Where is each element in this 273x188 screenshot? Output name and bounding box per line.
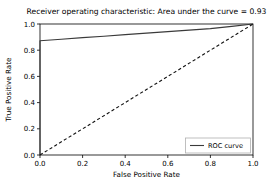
y-axis-label: True Positive Rate	[4, 57, 13, 123]
y-tick-label: 0.4	[24, 99, 36, 107]
roc-figure: Receiver operating characteristic: Area …	[0, 0, 273, 188]
x-tick-label: 1.0	[247, 160, 258, 168]
x-axis-label: False Positive Rate	[113, 170, 180, 179]
legend-label-roc-curve: ROC curve	[208, 142, 243, 150]
x-tick-label: 0.6	[162, 160, 174, 168]
x-tick-label: 0.4	[120, 160, 132, 168]
chart-legend[interactable]: ROC curve	[186, 138, 251, 153]
roc-chart-svg: Receiver operating characteristic: Area …	[0, 0, 273, 188]
y-tick-label: 1.0	[24, 21, 35, 29]
y-tick-label: 0.2	[24, 125, 35, 133]
x-tick-label: 0.2	[77, 160, 88, 168]
x-tick-label: 0.0	[34, 160, 45, 168]
x-tick-label: 0.8	[205, 160, 216, 168]
y-tick-label: 0.0	[24, 152, 35, 160]
y-tick-label: 0.6	[24, 73, 36, 81]
chart-title: Receiver operating characteristic: Area …	[27, 7, 267, 16]
y-tick-label: 0.8	[24, 47, 35, 55]
